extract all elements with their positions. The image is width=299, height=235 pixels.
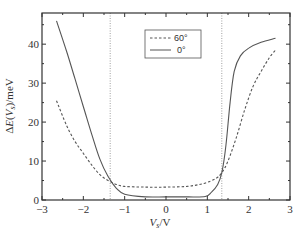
svg-text:ΔE(Vs)/meV: ΔE(Vs)/meV (3, 78, 17, 134)
x-axis-title: Vs/V (150, 216, 171, 230)
y-axis-title: ΔE(Vs)/meV (3, 78, 17, 134)
y-tick-label: 0 (34, 194, 40, 206)
legend: 60° 0° (145, 30, 201, 58)
y-tick-label: 30 (28, 77, 40, 89)
y-tick-label: 20 (28, 116, 40, 128)
x-tick-label: −1 (119, 203, 131, 215)
x-tick-label: −2 (77, 203, 89, 215)
legend-label-0deg: 0° (177, 45, 186, 55)
y-tick-label: 10 (28, 155, 40, 167)
chart: −3−2−10123 010203040 60° 0° Vs/V ΔE(Vs)/… (0, 0, 299, 235)
x-tick-label: 2 (246, 203, 252, 215)
legend-label-60deg: 60° (174, 33, 188, 43)
x-tick-label: 0 (163, 203, 169, 215)
series-line-60deg (57, 50, 276, 187)
x-tick-label: 3 (287, 203, 293, 215)
x-tick-label: 1 (205, 203, 211, 215)
y-tick-label: 40 (28, 38, 40, 50)
svg-text:Vs/V: Vs/V (150, 216, 171, 230)
legend-box (145, 30, 201, 58)
